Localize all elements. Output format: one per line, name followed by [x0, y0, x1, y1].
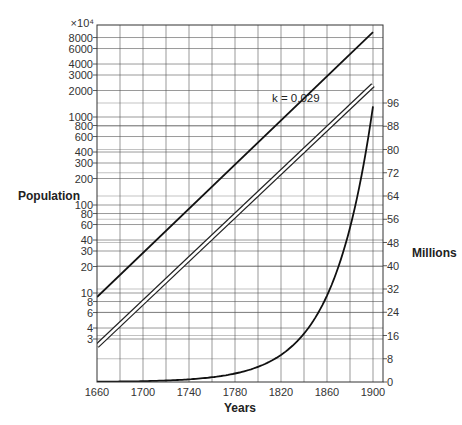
right-tick-label: 72: [387, 167, 399, 179]
x-tick-label: 1820: [269, 386, 293, 398]
right-tick-label: 0: [387, 376, 393, 388]
population-growth-chart: 8000600040003000200010008006004003002001…: [0, 0, 462, 425]
right-tick-label: 32: [387, 283, 399, 295]
right-tick-label: 8: [387, 353, 393, 365]
left-tick-label: 2000: [69, 85, 93, 97]
x-axis-title: Years: [224, 401, 256, 415]
plot-frame: [97, 25, 383, 382]
right-tick-label: 24: [387, 306, 399, 318]
right-tick-label: 64: [387, 190, 399, 202]
right-tick-label: 96: [387, 97, 399, 109]
right-tick-label: 16: [387, 330, 399, 342]
x-tick-label: 1660: [85, 386, 109, 398]
right-tick-label: 56: [387, 213, 399, 225]
left-axis-multiplier: ×10⁴: [71, 17, 95, 29]
left-tick-label: 6: [87, 307, 93, 319]
left-tick-label: 20: [81, 261, 93, 273]
right-axis-title: Millions: [412, 246, 457, 260]
growth-rate-annotation: k = 0.029: [272, 92, 320, 104]
left-tick-label: 3: [87, 333, 93, 345]
right-tick-label: 40: [387, 260, 399, 272]
x-tick-label: 1700: [131, 386, 155, 398]
left-tick-label: 30: [81, 245, 93, 257]
left-tick-label: 3000: [69, 69, 93, 81]
left-tick-label: 600: [75, 131, 93, 143]
x-tick-label: 1900: [361, 386, 385, 398]
left-axis-title: Population: [18, 189, 80, 203]
x-tick-label: 1860: [315, 386, 339, 398]
left-tick-label: 6000: [69, 43, 93, 55]
right-tick-label: 80: [387, 144, 399, 156]
right-tick-label: 88: [387, 120, 399, 132]
grid-lines: [97, 25, 383, 382]
left-tick-label: 60: [81, 219, 93, 231]
left-tick-label: 200: [75, 173, 93, 185]
x-axis-ticks: 1660170017401780182018601900: [85, 386, 385, 398]
right-axis-ticks: 081624324048566472808896: [383, 97, 399, 388]
right-tick-label: 48: [387, 237, 399, 249]
left-tick-label: 300: [75, 157, 93, 169]
x-tick-label: 1740: [177, 386, 201, 398]
x-tick-label: 1780: [223, 386, 247, 398]
